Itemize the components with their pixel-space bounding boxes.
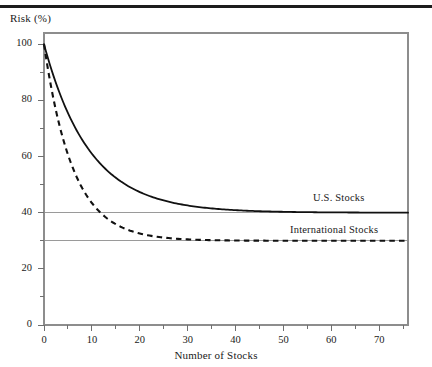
x-tick-label-30: 30 [173, 334, 203, 345]
axis-ticks [38, 44, 403, 331]
plot-border [44, 33, 408, 325]
x-tick-label-60: 60 [316, 334, 346, 345]
x-tick-label-40: 40 [221, 334, 251, 345]
y-tick-label-0: 0 [4, 318, 32, 329]
y-tick-label-40: 40 [4, 206, 32, 217]
plot-area [0, 0, 432, 367]
x-tick-label-0: 0 [29, 334, 59, 345]
data-series [44, 44, 408, 241]
y-tick-label-60: 60 [4, 150, 32, 161]
plot-frame [44, 33, 408, 325]
risk-diversification-chart: Risk (%) 020406080100 010203040506070 U.… [0, 0, 432, 367]
x-tick-label-20: 20 [125, 334, 155, 345]
series-annotation-1: U.S. Stocks [313, 192, 365, 203]
series-line-1 [44, 44, 408, 212]
y-tick-label-80: 80 [4, 93, 32, 104]
y-tick-label-20: 20 [4, 262, 32, 273]
series-annotation-2: International Stocks [290, 224, 378, 235]
x-tick-label-10: 10 [77, 334, 107, 345]
x-tick-label-70: 70 [364, 334, 394, 345]
x-axis-title: Number of Stocks [0, 349, 432, 361]
y-tick-label-100: 100 [4, 37, 32, 48]
x-tick-label-50: 50 [268, 334, 298, 345]
series-line-2 [44, 44, 408, 241]
